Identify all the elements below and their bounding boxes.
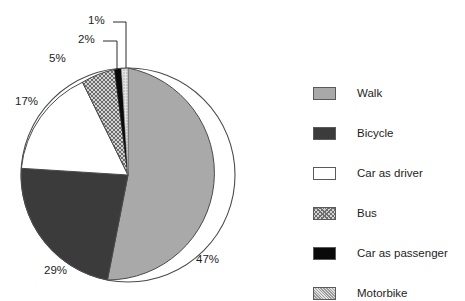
pie-label-walk: 47% bbox=[196, 253, 219, 265]
leader-line-motorbike bbox=[113, 22, 126, 68]
legend-item-bicycle[interactable]: Bicycle bbox=[313, 113, 463, 153]
pie-label-car-as-passenger: 2% bbox=[78, 33, 95, 45]
legend-swatch-car-as-passenger-icon bbox=[313, 247, 336, 260]
pie-label-bus: 5% bbox=[49, 52, 66, 64]
legend-item-walk[interactable]: Walk bbox=[313, 73, 463, 113]
legend-swatch-motorbike-icon bbox=[313, 287, 336, 300]
legend-label-car-as-passenger: Car as passenger bbox=[357, 247, 448, 259]
legend-swatch-car-as-driver-icon bbox=[313, 167, 336, 180]
legend-label-car-as-driver: Car as driver bbox=[357, 167, 423, 179]
pie-chart-graphic bbox=[0, 0, 300, 301]
legend-swatch-walk-icon bbox=[313, 87, 336, 100]
legend-swatch-bicycle-icon bbox=[313, 127, 336, 140]
legend-label-motorbike: Motorbike bbox=[357, 287, 408, 299]
pie-label-motorbike: 1% bbox=[88, 14, 105, 26]
pie-label-bicycle: 29% bbox=[44, 264, 67, 276]
pie-label-car-as-driver: 17% bbox=[15, 95, 38, 107]
legend-swatch-bus-icon bbox=[313, 207, 336, 220]
legend-item-car-as-driver[interactable]: Car as driver bbox=[313, 153, 463, 193]
legend-item-car-as-passenger[interactable]: Car as passenger bbox=[313, 233, 463, 273]
legend-label-bicycle: Bicycle bbox=[357, 127, 393, 139]
legend-label-walk: Walk bbox=[357, 87, 382, 99]
legend-label-bus: Bus bbox=[357, 207, 377, 219]
legend-item-bus[interactable]: Bus bbox=[313, 193, 463, 233]
chart-legend: Walk Bicycle Car as driver Bus Car as pa… bbox=[313, 73, 463, 301]
legend-item-motorbike[interactable]: Motorbike bbox=[313, 273, 463, 301]
pie-chart-figure: 47% 29% 17% 5% 2% 1% Walk Bicycle Car as… bbox=[0, 0, 465, 301]
leader-line-car-as-passenger bbox=[103, 41, 117, 70]
